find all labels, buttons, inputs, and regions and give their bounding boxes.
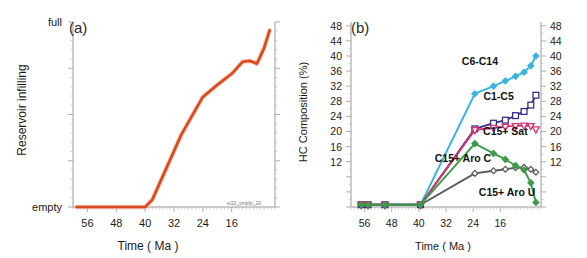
- panel-b-x-tick-label: 24: [467, 217, 479, 229]
- panel-b-hc-composition: C6-C14C1-C5C15+ SatC15+ Aro CC15+ Aro U …: [293, 0, 587, 258]
- panel-b-y-axis-title: HC Composition (%): [297, 62, 309, 162]
- panel-b-y-tick-label-right: 16: [550, 141, 562, 153]
- panel-b-y-tick-label-left: 20: [330, 125, 342, 137]
- panel-b-y-tick-label-right: 12: [550, 156, 562, 168]
- panel-a-x-tick-label: 48: [110, 217, 122, 229]
- panel-a-y-tick-label: full: [48, 16, 62, 28]
- panel-b-marker-c1-c5: [533, 92, 539, 98]
- panel-a-label: (a): [69, 19, 87, 36]
- panel-b-series-label-c15plus-sat: C15+ Sat: [483, 125, 528, 137]
- panel-b-series-label-c1-c5: C1-C5: [483, 90, 514, 102]
- panel-b-x-tick-label: 48: [386, 217, 398, 229]
- panel-b-marker-c1-c5: [521, 109, 527, 115]
- panel-a-svg: (a) el22_cmpfp_20 emptyfull 564840322416…: [0, 0, 293, 258]
- panel-b-series-label-c15plus-aro-u: C15+ Aro U: [479, 186, 536, 198]
- panel-b-y-tick-label-left: 28: [330, 95, 342, 107]
- figure-container: (a) el22_cmpfp_20 emptyfull 564840322416…: [0, 0, 587, 258]
- panel-b-y-tick-label-left: 24: [330, 110, 342, 122]
- panel-b-y-tick-label-right: 48: [550, 20, 562, 32]
- panel-b-marker-c1-c5: [513, 113, 519, 119]
- panel-a-x-tick-label: 16: [226, 217, 238, 229]
- panel-b-x-tick-label: 56: [359, 217, 371, 229]
- panel-b-y-tick-label-left: 16: [330, 141, 342, 153]
- panel-b-y-tick-label-left: 40: [330, 50, 342, 62]
- panel-a-x-tick-label: 32: [168, 217, 180, 229]
- panel-b-x-tick-label: 32: [440, 217, 452, 229]
- panel-b-svg: C6-C14C1-C5C15+ SatC15+ Aro CC15+ Aro U …: [293, 0, 587, 258]
- panel-a-reservoir-infilling: (a) el22_cmpfp_20 emptyfull 564840322416…: [0, 0, 293, 258]
- panel-b-y-tick-label-right: 44: [550, 35, 562, 47]
- panel-a-x-axis-title: Time ( Ma ): [118, 239, 179, 253]
- panel-a-x-tick-label: 24: [197, 217, 209, 229]
- panel-b-label: (b): [351, 19, 369, 36]
- panel-b-series-label-c6-c14: C6-C14: [462, 55, 498, 67]
- panel-b-y-tick-label-right: 40: [550, 50, 562, 62]
- panel-b-y-tick-label-left: 48: [330, 20, 342, 32]
- panel-b-series-label-c15plus-aro-c: C15+ Aro C: [435, 152, 492, 164]
- panel-b-x-tick-label: 16: [494, 217, 506, 229]
- panel-a-y-tick-label: empty: [32, 201, 62, 213]
- panel-a-x-tick-label: 56: [81, 217, 93, 229]
- panel-b-marker-c1-c5: [502, 117, 508, 123]
- panel-b-y-tick-label-right: 20: [550, 125, 562, 137]
- panel-b-y-tick-label-right: 28: [550, 95, 562, 107]
- panel-b-marker-c1-c5: [528, 102, 534, 108]
- panel-b-y-tick-label-right: 32: [550, 80, 562, 92]
- panel-b-x-axis-title: Time ( Ma ): [415, 240, 471, 252]
- panel-b-x-tick-label: 40: [413, 217, 425, 229]
- panel-b-y-tick-label-left: 36: [330, 65, 342, 77]
- panel-b-y-tick-label-right: 36: [550, 65, 562, 77]
- panel-b-y-tick-label-left: 44: [330, 35, 342, 47]
- panel-a-watermark: el22_cmpfp_20: [227, 201, 261, 206]
- panel-b-y-tick-label-left: 32: [330, 80, 342, 92]
- panel-a-x-tick-label: 40: [139, 217, 151, 229]
- panel-b-y-tick-label-right: 24: [550, 110, 562, 122]
- panel-b-y-tick-label-left: 12: [330, 156, 342, 168]
- panel-a-y-axis-title: Reservoir infilling: [15, 64, 29, 155]
